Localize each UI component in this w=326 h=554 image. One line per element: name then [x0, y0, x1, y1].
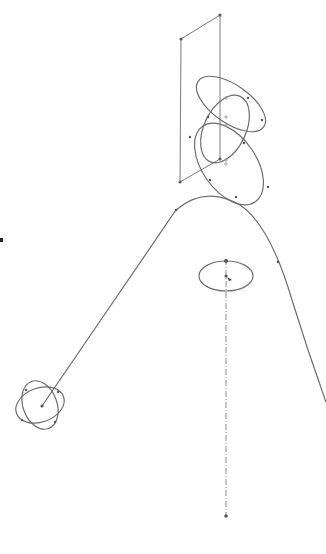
construction-marks [224, 96, 228, 166]
profile-ellipse-upper[interactable] [187, 65, 274, 142]
sketch-canvas[interactable] [0, 0, 326, 554]
atom-ellipse-a[interactable] [11, 380, 70, 429]
sweep-path[interactable] [42, 196, 326, 406]
isolated-point[interactable] [0, 238, 3, 242]
vertex-points [0, 14, 279, 518]
arrow-marker [227, 277, 232, 281]
profile-ellipse-lower[interactable] [180, 111, 277, 217]
